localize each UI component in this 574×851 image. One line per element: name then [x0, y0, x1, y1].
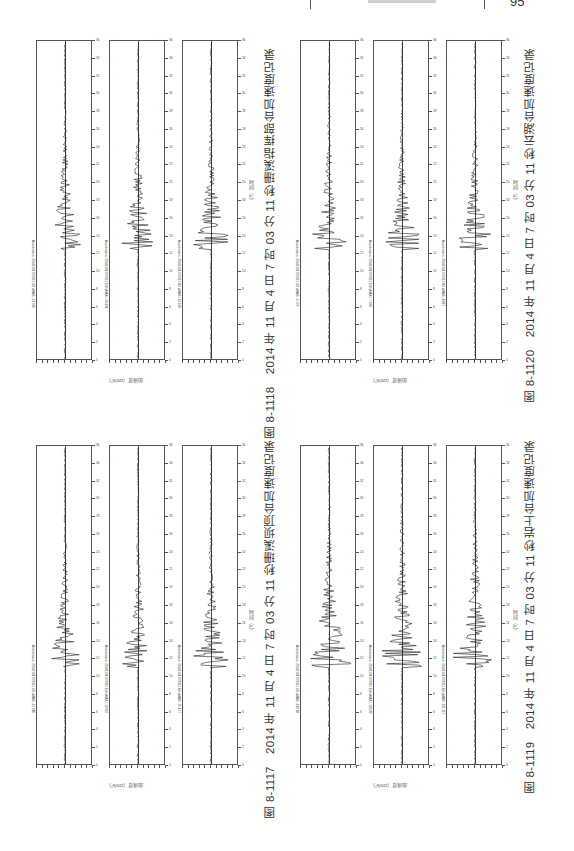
time-tick-label: 22	[433, 567, 436, 571]
panel-title: Acceleration: 20141104 070311 NS aMAX=-8…	[441, 240, 445, 306]
time-tick-label: 24	[169, 550, 172, 554]
accel-tick	[300, 360, 301, 363]
time-tick-label: 26	[433, 532, 436, 536]
time-tick	[502, 481, 505, 482]
accel-tick	[148, 765, 149, 768]
time-tick	[356, 729, 359, 730]
accel-tick	[120, 360, 121, 363]
time-tick	[502, 76, 505, 77]
accel-tick	[36, 360, 37, 363]
time-tick-label: 8	[433, 287, 435, 291]
time-tick-label: 22	[360, 567, 363, 571]
time-axis: 024681012141618202224262830323436	[356, 40, 364, 360]
time-tick	[356, 58, 359, 59]
accel-tick	[115, 360, 116, 363]
time-tick	[502, 694, 505, 695]
time-tick-label: 8	[169, 692, 171, 696]
accel-tick	[216, 765, 217, 768]
time-tick	[238, 463, 241, 464]
time-tick-label: 28	[96, 109, 99, 113]
time-tick-label: 26	[169, 127, 172, 131]
time-tick	[502, 552, 505, 553]
accel-tick	[210, 360, 211, 363]
time-tick	[165, 93, 168, 94]
time-tick-label: 22	[360, 162, 363, 166]
time-tick-label: 12	[433, 656, 436, 660]
accel-tick	[457, 765, 458, 768]
accel-tick	[390, 765, 391, 768]
time-tick-label: 18	[96, 198, 99, 202]
time-tick-label: 0	[96, 358, 98, 362]
time-tick-label: 24	[433, 145, 436, 149]
time-tick-label: 32	[169, 479, 172, 483]
time-tick-label: 16	[506, 621, 509, 625]
accel-tick	[322, 765, 323, 768]
time-tick-label: 24	[96, 550, 99, 554]
seismogram-panel	[36, 40, 92, 360]
accel-tick	[339, 765, 340, 768]
time-tick-label: 30	[433, 496, 436, 500]
accel-tick	[159, 765, 160, 768]
time-tick-label: 8	[169, 287, 171, 291]
time-tick-label: 0	[242, 358, 244, 362]
time-tick	[92, 40, 95, 41]
time-tick-label: 20	[169, 180, 172, 184]
time-tick-label: 32	[506, 479, 509, 483]
accel-tick	[379, 360, 380, 363]
time-tick	[165, 498, 168, 499]
time-tick-label: 34	[506, 56, 509, 60]
time-tick-label: 18	[433, 198, 436, 202]
time-tick	[429, 342, 432, 343]
time-tick	[92, 324, 95, 325]
panel-title: Acceleration: 20141104 070311 NS aMAX=-2…	[177, 645, 181, 713]
time-tick	[92, 182, 95, 183]
time-tick	[502, 641, 505, 642]
panel-title: Acceleration: 20141104 070311 NS aMAX=-1…	[441, 645, 445, 714]
time-tick	[429, 729, 432, 730]
time-tick-label: 26	[506, 127, 509, 131]
time-tick	[429, 324, 432, 325]
time-tick	[429, 111, 432, 112]
accel-tick	[232, 765, 233, 768]
time-tick-label: 10	[242, 269, 245, 273]
time-tick-label: 2	[242, 745, 244, 749]
time-tick	[429, 605, 432, 606]
time-tick-label: 24	[360, 145, 363, 149]
time-tick-label: 0	[242, 763, 244, 767]
time-tick	[238, 307, 241, 308]
accel-tick	[58, 360, 59, 363]
accel-tick	[92, 360, 93, 363]
time-tick-label: 12	[96, 656, 99, 660]
time-tick	[356, 164, 359, 165]
time-tick	[356, 516, 359, 517]
panel-title: Acceleration: 20141104 070311 UD aMAX=-1…	[31, 645, 35, 713]
figure-caption: 图 8-1117 2014 年 11 月 4 日 7 时 03 分 11 秒珊溪…	[262, 440, 278, 818]
accel-tick	[356, 360, 357, 363]
time-tick-label: 18	[242, 198, 245, 202]
accel-tick	[204, 765, 205, 768]
time-tick	[502, 111, 505, 112]
time-tick-label: 28	[96, 514, 99, 518]
time-tick-label: 30	[242, 496, 245, 500]
accel-axis-label: 加速度（cm/s²）	[106, 378, 143, 385]
time-tick-label: 20	[96, 180, 99, 184]
time-tick-label: 18	[360, 198, 363, 202]
time-tick	[238, 147, 241, 148]
time-tick	[502, 569, 505, 570]
time-tick	[92, 729, 95, 730]
time-tick	[356, 445, 359, 446]
accel-tick	[412, 360, 413, 363]
accel-axis	[182, 765, 238, 775]
accel-tick	[452, 360, 453, 363]
time-tick-label: 16	[242, 621, 245, 625]
accel-axis-label: 加速度（cm/s²）	[370, 783, 407, 790]
time-tick	[92, 111, 95, 112]
time-tick-label: 30	[360, 496, 363, 500]
seismogram-panel	[109, 445, 165, 765]
time-tick	[429, 76, 432, 77]
accel-tick	[463, 360, 464, 363]
time-axis: 024681012141618202224262830323436	[502, 40, 510, 360]
time-tick	[92, 569, 95, 570]
accel-tick	[401, 360, 402, 363]
time-tick-label: 24	[360, 550, 363, 554]
